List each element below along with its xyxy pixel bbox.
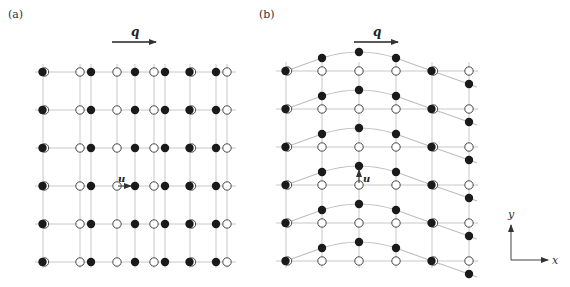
atom-equilibrium (113, 220, 121, 228)
atom-equilibrium (465, 143, 473, 151)
atom-equilibrium (318, 219, 326, 227)
atom-displaced (427, 67, 435, 75)
atom-displaced (355, 86, 363, 94)
atom-displaced (185, 106, 193, 114)
atom-equilibrium (318, 143, 326, 151)
atom-displaced (355, 48, 363, 56)
atom-displaced (318, 244, 326, 252)
atom-displaced (465, 118, 473, 126)
displacement-wave (286, 242, 477, 277)
wave-vector-label: q (131, 25, 139, 39)
atom-displaced (131, 106, 139, 114)
atom-displaced (212, 258, 220, 266)
atom-displaced (161, 68, 169, 76)
atom-equilibrium (355, 219, 363, 227)
atom-displaced (131, 182, 139, 190)
atom-displaced (38, 182, 46, 190)
atom-displaced (212, 68, 220, 76)
atom-displaced (161, 182, 169, 190)
panel-a-label: (a) (8, 8, 23, 21)
atom-displaced (281, 219, 289, 227)
atom-equilibrium (392, 181, 400, 189)
atom-equilibrium (150, 182, 158, 190)
atom-displaced (427, 181, 435, 189)
atom-displaced (87, 106, 95, 114)
atom-displaced (355, 238, 363, 246)
atom-equilibrium (318, 181, 326, 189)
atom-displaced (38, 220, 46, 228)
atom-equilibrium (76, 220, 84, 228)
displacement-label: u (118, 173, 125, 184)
atom-equilibrium (223, 68, 231, 76)
atom-equilibrium (392, 257, 400, 265)
atom-equilibrium (150, 68, 158, 76)
atom-displaced (465, 232, 473, 240)
atom-displaced (392, 244, 400, 252)
atom-equilibrium (150, 258, 158, 266)
atom-displaced (87, 144, 95, 152)
atom-equilibrium (113, 258, 121, 266)
atom-displaced (281, 143, 289, 151)
atom-displaced (427, 105, 435, 113)
atom-equilibrium (113, 144, 121, 152)
atom-displaced (185, 144, 193, 152)
atom-displaced (38, 144, 46, 152)
atom-equilibrium (392, 67, 400, 75)
atom-equilibrium (355, 257, 363, 265)
atom-displaced (185, 258, 193, 266)
atom-equilibrium (150, 106, 158, 114)
atom-displaced (185, 68, 193, 76)
atom-displaced (427, 257, 435, 265)
atom-equilibrium (113, 68, 121, 76)
atom-displaced (392, 206, 400, 214)
atom-equilibrium (318, 67, 326, 75)
atom-displaced (212, 182, 220, 190)
atom-equilibrium (76, 258, 84, 266)
atom-displaced (318, 168, 326, 176)
displacement-wave (286, 166, 477, 201)
displacement-label: u (363, 173, 370, 184)
atom-displaced (87, 68, 95, 76)
displacement-wave (286, 90, 477, 125)
atom-displaced (131, 68, 139, 76)
atom-displaced (131, 144, 139, 152)
atom-equilibrium (465, 181, 473, 189)
atom-equilibrium (392, 219, 400, 227)
panel-a: (a)qu (8, 8, 236, 268)
atom-displaced (318, 54, 326, 62)
atom-displaced (161, 258, 169, 266)
atom-equilibrium (355, 67, 363, 75)
atom-displaced (318, 206, 326, 214)
atom-displaced (38, 68, 46, 76)
atom-displaced (212, 144, 220, 152)
y-axis-label: y (507, 208, 515, 221)
atom-displaced (131, 220, 139, 228)
atom-equilibrium (318, 257, 326, 265)
atom-equilibrium (465, 105, 473, 113)
atom-displaced (392, 168, 400, 176)
atom-equilibrium (355, 105, 363, 113)
atom-displaced (131, 258, 139, 266)
atom-displaced (185, 182, 193, 190)
atom-displaced (318, 130, 326, 138)
displacement-wave (286, 128, 477, 163)
atom-displaced (465, 270, 473, 278)
atom-displaced (161, 106, 169, 114)
atom-equilibrium (113, 106, 121, 114)
atom-equilibrium (76, 182, 84, 190)
atom-equilibrium (223, 182, 231, 190)
atom-displaced (38, 106, 46, 114)
atom-equilibrium (76, 68, 84, 76)
displacement-wave (286, 204, 477, 239)
atom-equilibrium (150, 220, 158, 228)
atom-equilibrium (465, 257, 473, 265)
atom-displaced (185, 220, 193, 228)
atom-displaced (87, 258, 95, 266)
atom-displaced (281, 105, 289, 113)
atom-equilibrium (223, 144, 231, 152)
displacement-wave (286, 52, 477, 87)
atom-displaced (355, 124, 363, 132)
atom-equilibrium (223, 106, 231, 114)
atom-equilibrium (223, 258, 231, 266)
atom-equilibrium (76, 106, 84, 114)
